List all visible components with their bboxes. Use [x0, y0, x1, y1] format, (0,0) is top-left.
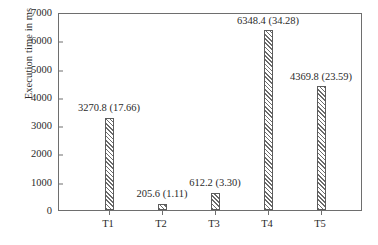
bar-t5[interactable] [317, 86, 326, 210]
y-tick-mark-3000 [59, 127, 63, 128]
x-tick-mark-t2 [162, 211, 163, 215]
y-tick-label-6000: 6000 [0, 36, 52, 47]
bar-t4[interactable] [264, 30, 273, 210]
y-tick-mark-2000 [59, 155, 63, 156]
bar-t1[interactable] [105, 118, 114, 211]
x-tick-mark-t3 [215, 211, 216, 215]
y-tick-label-1000: 1000 [0, 177, 52, 188]
x-tick-label-t4: T4 [247, 219, 287, 230]
y-tick-label-4000: 4000 [0, 93, 52, 104]
x-tick-label-t5: T5 [300, 219, 340, 230]
y-tick-mark-5000 [59, 70, 63, 71]
y-tick-label-2000: 2000 [0, 149, 52, 160]
y-tick-mark-1000 [59, 183, 63, 184]
value-label-t5: 4369.8 (23.59) [290, 72, 352, 83]
value-label-t3: 612.2 (3.30) [189, 178, 241, 189]
plot-area: 3270.8 (17.66) 205.6 (1.11) 612.2 (3.30)… [58, 13, 362, 211]
value-label-t2: 205.6 (1.11) [136, 189, 187, 200]
bar-t2[interactable] [158, 204, 167, 210]
y-tick-label-3000: 3000 [0, 121, 52, 132]
y-tick-label-7000: 7000 [0, 8, 52, 19]
y-tick-label-5000: 5000 [0, 64, 52, 75]
x-tick-label-t3: T3 [194, 219, 234, 230]
x-tick-mark-t5 [321, 211, 322, 215]
y-tick-mark-6000 [59, 42, 63, 43]
y-tick-mark-4000 [59, 98, 63, 99]
x-tick-label-t1: T1 [88, 219, 128, 230]
x-tick-mark-t1 [109, 211, 110, 215]
x-tick-label-t2: T2 [141, 219, 181, 230]
bar-chart-figure: Execution time in ms 7000 6000 5000 4000… [0, 0, 378, 245]
value-label-t1: 3270.8 (17.66) [78, 103, 140, 114]
bar-t3[interactable] [211, 193, 220, 210]
x-tick-mark-t4 [268, 211, 269, 215]
y-tick-label-0: 0 [0, 206, 52, 217]
value-label-t4: 6348.4 (34.28) [237, 16, 299, 27]
